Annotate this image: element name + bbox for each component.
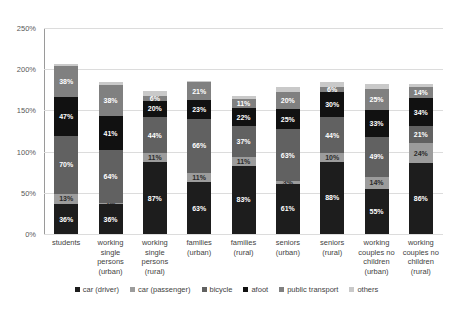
legend-item[interactable]: car (driver) <box>75 285 119 294</box>
bar-segment[interactable]: 30% <box>320 92 344 117</box>
bar-column[interactable]: 2%21%23%66%11%63% <box>187 81 211 234</box>
bar-segment-value-label: 20% <box>281 97 295 104</box>
bar-segment-value-label: 34% <box>414 109 428 116</box>
bar-segment[interactable]: 36% <box>99 204 123 234</box>
bar-segment-value-label: 63% <box>281 152 295 159</box>
bar-segment[interactable]: 11% <box>232 99 256 108</box>
bar-segment[interactable]: 21% <box>187 82 211 99</box>
bar-segment-value-label: 24% <box>414 150 428 157</box>
legend-item[interactable]: car (passenger) <box>130 285 191 294</box>
x-axis-category-label: seniors(rural) <box>309 238 355 257</box>
bar-segment[interactable]: 20% <box>276 92 300 108</box>
bar-column[interactable]: 4%38%41%64%2%36% <box>99 82 123 234</box>
bar-segment-value-label: 88% <box>325 194 339 201</box>
bar-segment[interactable]: 14% <box>409 87 433 99</box>
bar-segment[interactable]: 70% <box>54 136 78 194</box>
bar-segment[interactable]: 21% <box>409 126 433 143</box>
bar-segment-value-label: 49% <box>369 153 383 160</box>
x-axis-category-label: workingsinglepersons(rural) <box>132 238 178 276</box>
bar-segment[interactable]: 41% <box>99 116 123 150</box>
legend-item[interactable]: public transport <box>279 285 338 294</box>
bar-segment-value-label: 38% <box>103 97 117 104</box>
bar-segment[interactable]: 33% <box>365 110 389 137</box>
bar-segment[interactable]: 11% <box>187 173 211 182</box>
bar-segment[interactable]: 88% <box>320 162 344 235</box>
bar-segment[interactable]: 64% <box>99 150 123 203</box>
bar-segment[interactable]: 13% <box>54 194 78 205</box>
legend-item[interactable]: bicycle <box>202 285 233 294</box>
bar-segment[interactable]: 55% <box>365 189 389 234</box>
legend-item[interactable]: afoot <box>243 285 268 294</box>
bar-segment-value-label: 23% <box>192 106 206 113</box>
bar-column[interactable]: 6%25%33%49%14%55% <box>365 84 389 234</box>
bar-segment-value-label: 55% <box>369 208 383 215</box>
bar-segment[interactable]: 63% <box>276 129 300 181</box>
bar-segment-value-label: 64% <box>103 173 117 180</box>
x-axis-category-label: students <box>43 238 89 248</box>
bar-segment[interactable]: 47% <box>54 97 78 136</box>
bar-segment-value-label: 25% <box>281 116 295 123</box>
bar-segment[interactable]: 37% <box>232 126 256 156</box>
y-axis-tick-label: 0% <box>25 230 36 239</box>
bar-segment-value-label: 47% <box>59 113 73 120</box>
bar-segment[interactable]: 36% <box>54 204 78 234</box>
bar-segment[interactable]: 24% <box>409 143 433 163</box>
x-axis-category-label: families(urban) <box>176 238 222 257</box>
gridline <box>44 234 443 235</box>
bar-column[interactable]: 2%38%47%70%13%36% <box>54 64 78 234</box>
bar-segment[interactable]: 87% <box>143 162 167 234</box>
bar-segment[interactable]: 61% <box>276 184 300 234</box>
bar-segment[interactable]: 11% <box>232 157 256 166</box>
bar-column[interactable]: 3%14%34%21%24%86% <box>409 84 433 234</box>
bar-segment[interactable]: 66% <box>187 119 211 173</box>
legend-swatch <box>130 287 135 292</box>
bar-segment-value-label: 44% <box>148 132 162 139</box>
bar-segment[interactable]: 38% <box>99 85 123 116</box>
bar-segment[interactable]: 22% <box>232 108 256 126</box>
stacked-bar-chart: 0%50%100%150%200%250% 2%38%47%70%13%36%4… <box>0 0 453 313</box>
bar-segment[interactable]: 49% <box>365 137 389 177</box>
bar-segment[interactable]: 25% <box>365 89 389 110</box>
y-axis-tick-label: 50% <box>21 188 36 197</box>
bar-column[interactable]: 7%20%25%63%3%61% <box>276 87 300 234</box>
legend-swatch <box>75 287 80 292</box>
bar-column[interactable]: 3%11%22%37%11%83% <box>232 96 256 234</box>
bar-segment-value-label: 20% <box>148 105 162 112</box>
bar-segment-value-label: 38% <box>59 78 73 85</box>
bar-segment-value-label: 41% <box>103 130 117 137</box>
bar-segment-value-label: 61% <box>281 205 295 212</box>
bar-segment-value-label: 14% <box>414 89 428 96</box>
bar-segment[interactable]: 34% <box>409 98 433 126</box>
x-axis-category-labels: studentsworkingsinglepersons(urban)worki… <box>44 238 443 280</box>
legend-label: public transport <box>287 285 338 294</box>
bar-segment[interactable]: 44% <box>320 117 344 153</box>
bar-segment-value-label: 11% <box>148 154 162 161</box>
bar-segment-value-label: 63% <box>192 205 206 212</box>
bar-segment[interactable]: 83% <box>232 166 256 234</box>
bar-segment[interactable]: 14% <box>365 177 389 189</box>
bar-segment-value-label: 30% <box>325 101 339 108</box>
bar-column[interactable]: 6%6%30%44%10%88% <box>320 82 344 234</box>
y-axis-tick-label: 150% <box>17 106 36 115</box>
bar-segment-value-label: 87% <box>148 195 162 202</box>
bar-segment[interactable]: 86% <box>409 163 433 234</box>
bar-segment-value-label: 14% <box>369 179 383 186</box>
bar-segment[interactable]: 63% <box>187 182 211 234</box>
legend-label: others <box>357 285 378 294</box>
bar-segment[interactable]: 11% <box>143 153 167 162</box>
bar-segment[interactable]: 25% <box>276 109 300 130</box>
bar-segment-value-label: 11% <box>237 158 251 165</box>
x-axis-category-label: workingcouples nochildren(urban) <box>354 238 400 276</box>
bar-segment[interactable]: 10% <box>320 153 344 161</box>
bar-segment[interactable]: 23% <box>187 100 211 119</box>
y-axis-tick-label: 250% <box>17 24 36 33</box>
bar-series-container: 2%38%47%70%13%36%4%38%41%64%2%36%6%6%20%… <box>44 28 443 234</box>
y-axis-tick-label: 100% <box>17 147 36 156</box>
bar-column[interactable]: 6%6%20%44%11%87% <box>143 91 167 234</box>
bar-segment[interactable]: 44% <box>143 117 167 153</box>
legend-item[interactable]: others <box>349 285 378 294</box>
bar-segment[interactable]: 20% <box>143 101 167 117</box>
legend-label: bicycle <box>210 285 233 294</box>
bar-segment[interactable]: 38% <box>54 66 78 97</box>
legend-label: car (passenger) <box>138 285 191 294</box>
